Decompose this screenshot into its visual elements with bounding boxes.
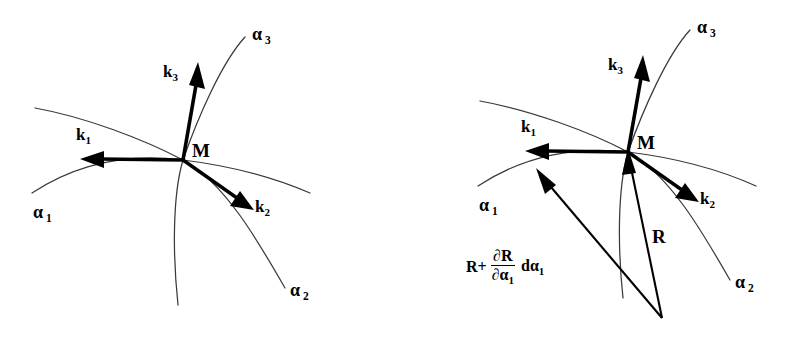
right-R-label: R [652, 226, 666, 247]
diagram-canvas: k3 k1 k2 M α3 α1 α2 [0, 0, 787, 342]
fraction-denominator-text: ∂α [492, 266, 509, 283]
fraction-denominator: ∂α1 [490, 266, 516, 286]
right-alpha-1-curve [478, 150, 756, 186]
right-k2-label: k2 [700, 189, 715, 210]
formula-lead: R+ [466, 259, 488, 275]
left-origin-label-M: M [192, 140, 210, 161]
left-k2-label: k2 [255, 197, 270, 218]
right-k2-vector [628, 152, 699, 202]
figure-root: k3 k1 k2 M α3 α1 α2 [0, 0, 787, 342]
left-k3-label: k3 [163, 62, 178, 83]
right-alpha-3-label: α3 [697, 17, 716, 39]
formula-tail-text: dα [521, 257, 539, 274]
right-alpha-2-label: α2 [735, 272, 754, 294]
left-panel: k3 k1 k2 M α3 α1 α2 [32, 24, 310, 305]
left-alpha-2-curve [35, 108, 285, 288]
left-k1-label: k1 [76, 125, 91, 146]
right-k3-label: k3 [608, 55, 623, 76]
left-k1-vector [80, 151, 183, 168]
fraction-denominator-subscript: 1 [509, 274, 515, 286]
partial-derivative-fraction: ∂R ∂α1 [490, 248, 516, 286]
left-alpha-1-curve [32, 158, 310, 193]
left-alpha-2-label: α2 [290, 280, 309, 302]
left-alpha-3-curve [174, 37, 245, 305]
left-alpha-3-label: α3 [252, 24, 271, 46]
formula-tail-subscript: 1 [539, 265, 545, 277]
fraction-numerator: ∂R [491, 248, 514, 266]
right-R-plus-dR-vector [536, 168, 662, 318]
right-k1-label: k1 [521, 117, 536, 138]
right-origin-label-M: M [637, 132, 655, 153]
left-k2-vector [183, 160, 254, 210]
formula-tail: dα1 [518, 258, 544, 277]
left-alpha-1-label: α1 [33, 202, 52, 224]
right-R-plus-dR-formula: R+ ∂R ∂α1 dα1 [466, 248, 544, 286]
right-alpha-1-label: α1 [479, 195, 498, 217]
